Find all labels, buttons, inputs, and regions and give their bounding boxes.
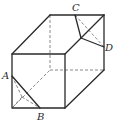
edge-bottom-right-depth (65, 70, 104, 108)
cuboid-diagram: A B C D (0, 0, 114, 134)
edge-top-left-depth (12, 15, 50, 54)
visible-edges (12, 15, 104, 108)
cut-line-c-mid (75, 15, 81, 38)
label-c: C (72, 2, 80, 13)
label-a: A (1, 70, 9, 81)
label-b: B (36, 111, 44, 122)
cut-line-ab (12, 76, 40, 108)
label-d: D (104, 42, 113, 53)
hidden-line-corner-ab-1 (12, 97, 22, 108)
edge-top-right-depth (65, 15, 104, 54)
cut-line-mid-d (81, 38, 104, 47)
